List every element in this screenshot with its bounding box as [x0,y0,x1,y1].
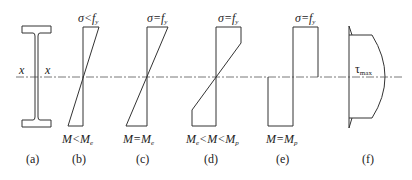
shear-max-label: τmax [355,62,372,77]
panel-d-elasto-plastic: σ=fy Me<M<Mp (d) [185,11,241,166]
panel-b-elastic-below-yield: σ<fy M<Me (b) [61,11,99,166]
stress-distribution-diagram: x x (a) σ<fy M<Me (b) σ=fy M=Me (c) σ=fy… [0,0,412,180]
moment-label-b: M<Me [61,132,93,147]
panel-e-fully-plastic: σ=fy M=Mp (e) [265,11,318,166]
stress-label-b: σ<fy [78,11,99,26]
caption-d: (d) [204,152,218,166]
axis-label-left: x [18,63,25,77]
caption-e: (e) [276,152,289,166]
moment-label-e: M=Mp [265,132,298,147]
stress-label-d: σ=fy [218,11,239,26]
panel-f-shear-stress: τmax (f) [349,26,385,166]
panel-c-elastic-limit: σ=fy M=Me (c) [122,11,168,166]
caption-a: (a) [26,152,39,166]
caption-f: (f) [362,152,374,166]
caption-b: (b) [72,152,86,166]
moment-label-c: M=Me [122,132,154,147]
stress-label-e: σ=fy [295,11,316,26]
axis-label-right: x [44,63,51,77]
stress-label-c: σ=fy [147,11,168,26]
caption-c: (c) [136,152,149,166]
moment-label-d: Me<M<Mp [185,132,239,147]
panel-a-i-section: x x (a) [18,26,51,166]
